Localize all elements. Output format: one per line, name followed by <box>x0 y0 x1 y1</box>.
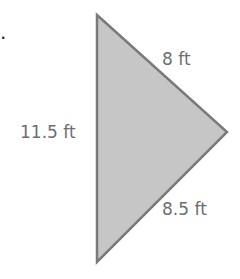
side-label-lower-right: 8.5 ft <box>162 201 207 218</box>
side-label-upper-right: 8 ft <box>162 51 191 68</box>
item-bullet: . <box>0 22 6 42</box>
side-label-left: 11.5 ft <box>20 124 76 141</box>
